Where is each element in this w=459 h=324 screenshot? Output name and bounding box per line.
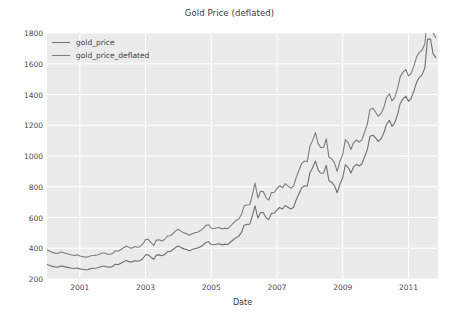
y-tick-label: 400 [3,244,43,253]
gridlines [47,33,438,279]
x-tick-label: 2005 [181,283,241,292]
series-line-gold-price [47,39,436,270]
legend-item-gold-price-deflated[interactable]: gold_price_deflated [52,49,172,62]
legend-item-gold-price[interactable]: gold_price [52,36,172,49]
plot-svg [47,33,438,279]
chart-legend: gold_price gold_price_deflated [52,36,172,62]
x-axis-label: Date [47,298,438,307]
legend-label: gold_price_deflated [76,51,149,60]
y-tick-label: 1200 [3,121,43,130]
x-tick-label: 2001 [50,283,110,292]
series-line-gold-price-deflated [47,33,436,257]
y-axis-tick-labels: 20040060080010001200140016001800 [0,0,43,324]
y-tick-label: 800 [3,182,43,191]
plot-area [47,33,438,279]
legend-swatch-icon [52,42,70,43]
data-series-group [47,33,436,270]
y-tick-label: 1600 [3,59,43,68]
y-tick-label: 1000 [3,152,43,161]
x-tick-label: 2011 [378,283,438,292]
x-tick-label: 2009 [313,283,373,292]
chart-figure: Gold Price (deflated) 200400600800100012… [0,0,459,324]
legend-label: gold_price [76,38,115,47]
y-tick-label: 1400 [3,90,43,99]
x-tick-label: 2003 [116,283,176,292]
y-tick-label: 600 [3,213,43,222]
y-tick-label: 1800 [3,29,43,38]
legend-swatch-icon [52,55,70,56]
y-tick-label: 200 [3,275,43,284]
page-title: Gold Price (deflated) [0,8,459,18]
x-tick-label: 2007 [247,283,307,292]
